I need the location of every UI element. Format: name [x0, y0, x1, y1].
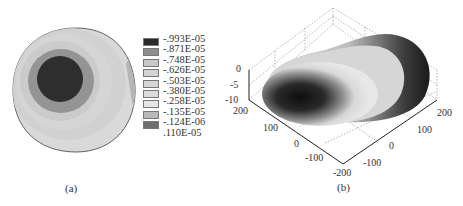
legend-swatch — [143, 111, 159, 119]
y-tick: 200 — [233, 105, 248, 116]
y-tick: 0 — [294, 138, 299, 149]
panel-a-contour-plot: -.993E-05 -.871E-05 -.748E-05 -.626E-05 … — [0, 0, 225, 206]
legend-label: -.626E-05 — [163, 64, 205, 75]
legend-label: -.124E-06 — [163, 116, 205, 127]
panel-b-3d-surface-plot: 0 -5 -10 200 100 0 -100 -200 200 100 0 -… — [225, 0, 463, 206]
legend-swatch — [143, 48, 159, 56]
z-tick: 0 — [236, 63, 241, 74]
caption-a: (a) — [65, 182, 77, 194]
legend-label: -.871E-05 — [163, 43, 205, 54]
legend-swatch — [143, 69, 159, 77]
x-tick: 0 — [389, 140, 394, 151]
legend-label: -.503E-05 — [163, 75, 205, 86]
legend-swatch — [143, 80, 159, 88]
legend-swatch — [143, 90, 159, 98]
legend-swatch — [143, 38, 159, 46]
legend-label: -.993E-05 — [163, 33, 205, 44]
legend-swatch — [143, 100, 159, 108]
legend-label: -.748E-05 — [163, 54, 205, 65]
legend-swatch — [143, 121, 159, 129]
legend-label: .110E-05 — [163, 127, 201, 138]
x-tick: 200 — [437, 107, 452, 118]
z-tick: -10 — [225, 94, 238, 105]
legend-swatch — [143, 59, 159, 67]
caption-b: (b) — [337, 181, 350, 193]
y-tick: -100 — [305, 152, 323, 163]
legend-label: -.380E-05 — [163, 85, 205, 96]
z-tick: -5 — [230, 79, 238, 90]
legend-label: -.135E-05 — [163, 106, 205, 117]
y-tick: -200 — [333, 167, 351, 178]
y-tick: 100 — [263, 122, 278, 133]
x-tick: 100 — [417, 124, 432, 135]
x-tick: -100 — [363, 157, 381, 168]
legend-label: -.258E-05 — [163, 95, 205, 106]
